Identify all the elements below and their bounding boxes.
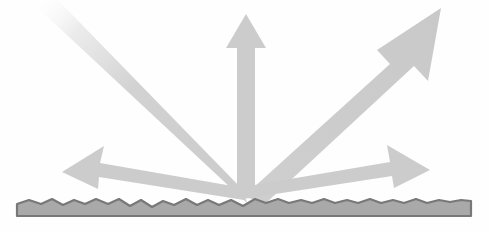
diffuse-reflection-diagram: Diffuse reflection of light from a rough… bbox=[0, 0, 489, 232]
scatter-diagram-canvas bbox=[0, 0, 489, 232]
